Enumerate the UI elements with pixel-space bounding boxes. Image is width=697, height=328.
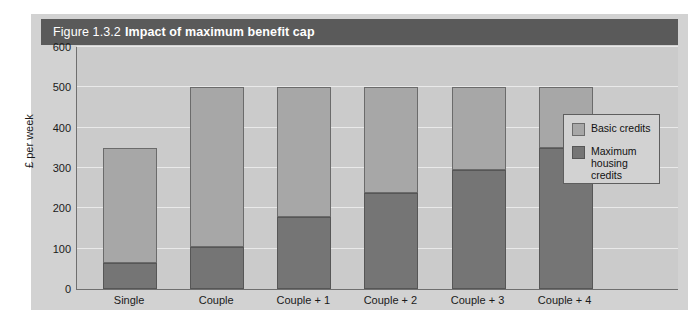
x-axis-tick-label: Couple + 3: [429, 294, 527, 306]
y-axis: £ per week 0100200300400500600: [31, 0, 76, 328]
bar-segment-basic-credits[interactable]: [452, 87, 506, 170]
bar-segment-basic-credits[interactable]: [190, 87, 244, 246]
y-axis-tick-label: 300: [31, 162, 71, 174]
x-axis-tick-label: Single: [80, 294, 178, 306]
bar-segment-basic-credits[interactable]: [364, 87, 418, 193]
legend-item-basic-credits: Basic credits: [572, 122, 659, 136]
legend-swatch-basic-credits-icon: [572, 123, 585, 136]
legend-item-maximum-housing-credits: Maximum housing credits: [572, 145, 659, 181]
bar-couple-1[interactable]: [277, 87, 331, 289]
x-axis-tick-label: Couple + 1: [254, 294, 352, 306]
figure-container: Figure 1.3.2 Impact of maximum benefit c…: [0, 0, 697, 328]
bar-segment-basic-credits[interactable]: [277, 87, 331, 217]
y-axis-tick-label: 0: [31, 283, 71, 295]
bar-segment-maximum-housing-credits[interactable]: [277, 217, 331, 289]
y-axis-tick-label: 500: [31, 81, 71, 93]
x-axis-tick-label: Couple + 4: [516, 294, 614, 306]
bar-couple-2[interactable]: [364, 87, 418, 289]
x-axis-tick-label: Couple: [167, 294, 265, 306]
bar-single[interactable]: [103, 148, 157, 289]
bar-couple-3[interactable]: [452, 87, 506, 289]
legend-label-maximum-housing-credits: Maximum housing credits: [591, 145, 659, 181]
figure-title-bar: Figure 1.3.2 Impact of maximum benefit c…: [41, 19, 678, 45]
bar-couple[interactable]: [190, 87, 244, 289]
legend-label-basic-credits: Basic credits: [591, 122, 651, 134]
y-axis-tick-label: 600: [31, 41, 71, 53]
x-axis-tick-label: Couple + 2: [341, 294, 439, 306]
bar-segment-maximum-housing-credits[interactable]: [103, 263, 157, 289]
bar-segment-maximum-housing-credits[interactable]: [190, 247, 244, 289]
y-axis-tick-label: 200: [31, 202, 71, 214]
legend-swatch-maximum-housing-credits-icon: [572, 146, 585, 159]
y-axis-tick-label: 100: [31, 243, 71, 255]
bar-segment-maximum-housing-credits[interactable]: [364, 193, 418, 289]
bar-segment-basic-credits[interactable]: [103, 148, 157, 263]
bar-segment-maximum-housing-credits[interactable]: [452, 170, 506, 289]
gridline: [77, 46, 678, 47]
legend: Basic credits Maximum housing credits: [563, 114, 660, 184]
page-title: Impact of maximum benefit cap: [125, 25, 315, 39]
y-axis-tick-label: 400: [31, 122, 71, 134]
